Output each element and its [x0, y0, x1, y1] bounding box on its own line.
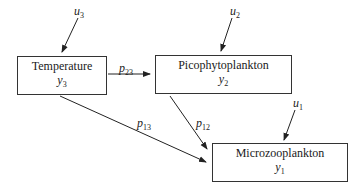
input-arrow-u2: [221, 18, 232, 51]
node-microzooplankton: Microzooplankton y1: [212, 143, 348, 182]
edge-label-p12: p12: [196, 117, 210, 134]
node-picophytoplankton: Picophytoplankton y2: [155, 55, 292, 94]
node-temperature: Temperature y3: [17, 56, 107, 95]
node-label: Microzooplankton: [236, 146, 325, 160]
node-variable: y1: [275, 160, 284, 179]
node-variable: y3: [57, 73, 66, 92]
node-label: Temperature: [32, 59, 92, 73]
node-label: Picophytoplankton: [178, 58, 269, 72]
input-label-u2: u2: [230, 5, 240, 22]
input-arrow-u3: [62, 18, 78, 52]
edge-arrow-p13: [60, 96, 206, 162]
edge-label-p23: p23: [119, 62, 133, 79]
input-label-u3: u3: [74, 5, 84, 22]
node-variable: y2: [219, 72, 228, 91]
input-arrow-u1: [284, 110, 295, 140]
input-label-u1: u1: [293, 97, 303, 114]
edge-label-p13: p13: [137, 117, 151, 134]
